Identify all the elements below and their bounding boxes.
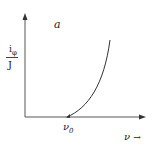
y-axis-label-numerator: iφ (9, 44, 17, 57)
x-label-arrow-icon: → (133, 132, 141, 142)
x-label-nu: ν (124, 131, 130, 142)
y-axis-arrow-icon (23, 13, 28, 20)
plot-area (0, 0, 158, 149)
y-label-sub: φ (12, 49, 17, 57)
threshold-marker-icon (66, 114, 70, 118)
threshold-label: ν0 (63, 121, 74, 135)
y-axis-label-fraction-bar (6, 57, 18, 58)
curve (67, 40, 110, 117)
threshold-sub: 0 (69, 127, 73, 135)
x-axis-arrow-icon (139, 115, 146, 120)
y-axis-label-denominator: J (8, 59, 12, 70)
panel-label: a (54, 18, 61, 31)
x-axis-label: ν → (124, 131, 141, 142)
